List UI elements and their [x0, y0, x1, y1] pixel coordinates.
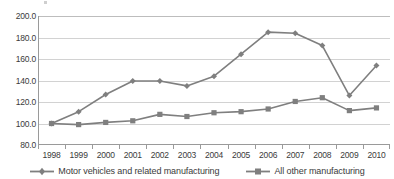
data-point-square: [347, 108, 352, 113]
data-point-diamond: [292, 30, 298, 36]
x-axis-tick-label: 2001: [124, 150, 142, 161]
data-point-square: [238, 109, 243, 114]
x-axis-tick: [38, 145, 39, 149]
y-axis-tick-label: 100.0: [2, 119, 36, 128]
plot-area: [38, 16, 390, 145]
data-point-square: [184, 114, 189, 119]
x-axis-tick: [173, 145, 174, 149]
data-point-diamond: [184, 83, 190, 89]
data-point-square: [76, 122, 81, 127]
data-point-square: [266, 106, 271, 111]
x-axis-tick-label: 2009: [340, 150, 358, 161]
x-axis-tick: [336, 145, 337, 149]
line-chart: 80.0100.0120.0140.0160.0180.0200.0 19981…: [0, 0, 394, 179]
x-axis-labels: 1998199920002001200220032004200520062007…: [38, 150, 390, 162]
y-axis-tick-label: 200.0: [2, 12, 36, 21]
x-axis-tick-label: 2007: [286, 150, 304, 161]
x-axis-tick: [282, 145, 283, 149]
x-axis-tick-label: 2008: [313, 150, 331, 161]
x-axis-tick: [255, 145, 256, 149]
data-point-square: [374, 105, 379, 110]
data-point-square: [103, 120, 108, 125]
x-axis-tick-label: 2004: [205, 150, 223, 161]
data-point-diamond: [130, 78, 136, 84]
x-axis-tick: [228, 145, 229, 149]
data-point-square: [320, 95, 325, 100]
x-axis-tick: [389, 145, 390, 149]
chart-legend: Motor vehicles and related manufacturing…: [0, 164, 394, 179]
x-axis-tick: [119, 145, 120, 149]
data-point-square: [157, 112, 162, 117]
x-axis-tick: [363, 145, 364, 149]
x-axis-tick: [92, 145, 93, 149]
x-axis-tick: [309, 145, 310, 149]
y-axis-tick-label: 180.0: [2, 33, 36, 42]
data-point-square: [211, 110, 216, 115]
x-axis-tick-label: 1999: [70, 150, 88, 161]
y-axis-tick-label: 80.0: [2, 141, 36, 150]
legend-item-motor-vehicles[interactable]: Motor vehicles and related manufacturing: [29, 166, 219, 177]
diamond-marker-icon: [29, 166, 55, 177]
x-axis-tick-label: 2003: [178, 150, 196, 161]
y-axis-tick-label: 160.0: [2, 55, 36, 64]
x-axis-tick: [200, 145, 201, 149]
x-axis-tick-label: 2010: [367, 150, 385, 161]
legend-label-motor-vehicles: Motor vehicles and related manufacturing: [58, 166, 219, 177]
y-axis-tick-label: 140.0: [2, 76, 36, 85]
data-point-square: [293, 99, 298, 104]
x-axis-tick-label: 1998: [42, 150, 60, 161]
data-point-diamond: [319, 43, 325, 49]
image-artifact: [44, 1, 47, 4]
x-axis-tick-label: 2005: [232, 150, 250, 161]
legend-label-all-other: All other manufacturing: [274, 166, 364, 177]
x-axis-tick-label: 2006: [259, 150, 277, 161]
data-point-square: [49, 121, 54, 126]
data-point-diamond: [157, 78, 163, 84]
x-axis-tick-label: 2002: [151, 150, 169, 161]
y-axis-labels: 80.0100.0120.0140.0160.0180.0200.0: [0, 16, 36, 145]
y-axis-tick-label: 120.0: [2, 98, 36, 107]
x-axis-tick: [146, 145, 147, 149]
data-point-square: [130, 118, 135, 123]
legend-item-all-other[interactable]: All other manufacturing: [245, 166, 364, 177]
x-axis-ticks: [38, 145, 390, 149]
x-axis-tick-label: 2000: [97, 150, 115, 161]
x-axis-tick: [65, 145, 66, 149]
square-marker-icon: [245, 166, 271, 177]
series-layer: [38, 16, 390, 145]
